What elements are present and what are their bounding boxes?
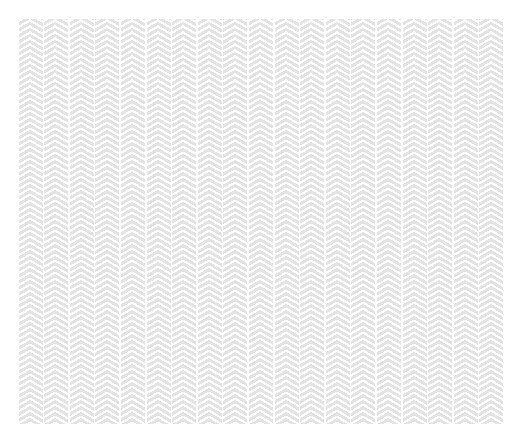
pattern-divider: [478, 19, 480, 424]
pattern-column: [158, 19, 171, 424]
pattern-column: [260, 19, 273, 424]
pattern-column: [414, 19, 427, 424]
pattern-divider: [17, 19, 19, 424]
pattern-column: [43, 19, 56, 424]
pattern-divider: [247, 19, 249, 424]
pattern-divider: [222, 19, 224, 424]
pattern-column: [196, 19, 209, 424]
pattern-divider: [119, 19, 121, 424]
pattern-column: [439, 19, 452, 424]
pattern-divider: [299, 19, 301, 424]
pattern-column: [209, 19, 222, 424]
pattern-column: [478, 19, 491, 424]
pattern-divider: [94, 19, 96, 424]
pattern-column: [465, 19, 478, 424]
pattern-divider: [273, 19, 275, 424]
pattern-column: [375, 19, 388, 424]
pattern-column: [286, 19, 299, 424]
pattern-column: [119, 19, 132, 424]
pattern-column: [363, 19, 376, 424]
pattern-divider: [43, 19, 45, 424]
pattern-column: [299, 19, 312, 424]
pattern-column: [388, 19, 401, 424]
pattern-divider: [401, 19, 403, 424]
pattern-divider: [324, 19, 326, 424]
pattern-column: [324, 19, 337, 424]
pattern-column: [55, 19, 68, 424]
pattern-column: [491, 19, 504, 424]
pattern-column: [247, 19, 260, 424]
pattern-column: [452, 19, 465, 424]
pattern-divider: [427, 19, 429, 424]
pattern-column: [17, 19, 30, 424]
pattern-divider: [171, 19, 173, 424]
pattern-divider: [68, 19, 70, 424]
pattern-column: [311, 19, 324, 424]
pattern-column: [401, 19, 414, 424]
pattern-divider: [196, 19, 198, 424]
pattern-column: [183, 19, 196, 424]
pattern-column: [273, 19, 286, 424]
pattern-column: [68, 19, 81, 424]
pattern-column: [427, 19, 440, 424]
pattern-divider: [145, 19, 147, 424]
pattern-divider: [375, 19, 377, 424]
pattern-divider: [350, 19, 352, 424]
pattern-column: [81, 19, 94, 424]
pattern-column: [171, 19, 184, 424]
pattern-column: [350, 19, 363, 424]
pattern-column: [222, 19, 235, 424]
pattern-column: [132, 19, 145, 424]
pattern-divider: [452, 19, 454, 424]
pattern-column: [235, 19, 248, 424]
pattern-column: [107, 19, 120, 424]
herringbone-pattern-background: [17, 19, 507, 424]
pattern-column: [337, 19, 350, 424]
pattern-column: [30, 19, 43, 424]
pattern-column: [94, 19, 107, 424]
pattern-column: [145, 19, 158, 424]
